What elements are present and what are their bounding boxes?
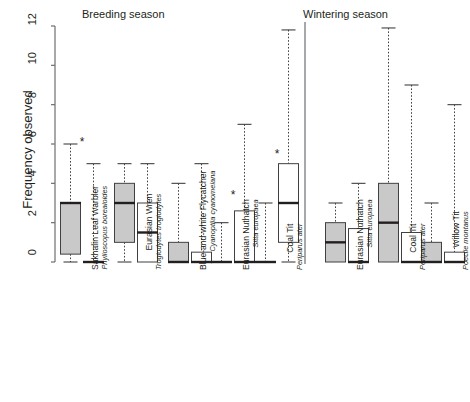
x-axis-label-4: Eurasian NuthatchSitta europaea (242, 199, 260, 270)
x-axis-label-6: Eurasian NuthatchSitta europaea (356, 199, 374, 270)
x-axis-label-8: Willow TitPoecile montanus (452, 211, 470, 270)
species-scientific-name: Sitta europaea (366, 199, 374, 270)
significance-asterisk: * (275, 147, 280, 161)
boxplot-box (114, 164, 135, 262)
species-scientific-name: Troglodytes troglodytes (155, 194, 163, 270)
boxplot-box (325, 203, 346, 262)
panel-title-breeding: Breeding season (82, 8, 165, 20)
species-scientific-name: Cyanoptila cyanomelana (209, 171, 217, 270)
species-scientific-name: Sitta europaea (252, 199, 260, 270)
y-tick-label: 0 (26, 249, 38, 271)
x-axis-label-1: Sakhalin Leaf WarblerPhylloscopus boreal… (91, 186, 109, 270)
y-tick-label: 2 (26, 210, 38, 232)
species-scientific-name: Phylloscopus borealoides (101, 186, 109, 270)
species-scientific-name: Periparus ater (419, 224, 427, 270)
annotation-layer: *** (80, 135, 280, 202)
species-scientific-name: Poecile montanus (462, 211, 470, 270)
y-tick-label: 12 (26, 13, 38, 35)
y-tick-label: 10 (26, 52, 38, 74)
x-axis-label-3: Blue-and-white FlycatcherCyanoptila cyan… (199, 171, 217, 270)
y-tick-label: 6 (26, 131, 38, 153)
boxplot-box (168, 183, 189, 262)
y-tick-label: 4 (26, 170, 38, 192)
species-scientific-name: Periparus ater (296, 224, 304, 270)
x-axis-label-5: Coal TitPeriparus ater (286, 224, 304, 270)
boxes-layer (60, 28, 465, 262)
y-tick-label: 8 (26, 92, 38, 114)
boxplot-box (378, 28, 399, 262)
boxplot-box (60, 144, 81, 262)
significance-asterisk: * (231, 188, 236, 202)
panel-title-wintering: Wintering season (303, 8, 388, 20)
x-axis-label-2: Eurasian WrenTroglodytes troglodytes (145, 194, 163, 270)
significance-asterisk: * (80, 135, 85, 149)
x-axis-label-7: Coal TitPeriparus ater (409, 224, 427, 270)
